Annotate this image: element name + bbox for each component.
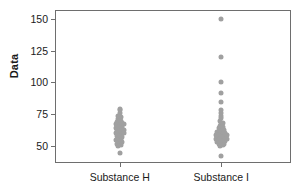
y-axis-tick-label: 100 — [30, 76, 48, 88]
y-axis-tick-label: 125 — [30, 45, 48, 57]
data-point — [219, 80, 224, 85]
x-axis-category-label: Substance H — [90, 171, 150, 183]
y-axis-tick — [51, 114, 56, 115]
data-point — [219, 99, 224, 104]
y-axis-tick — [51, 19, 56, 20]
y-axis-tick-label: 75 — [36, 108, 48, 120]
data-point — [219, 16, 224, 21]
x-axis-category-label: Substance I — [193, 171, 248, 183]
x-axis-tick — [221, 162, 222, 167]
data-point — [219, 154, 224, 159]
dotplot-figure: Data 5075100125150 Substance HSubstance … — [0, 0, 307, 193]
y-axis-tick — [51, 51, 56, 52]
y-axis-label: Data — [8, 36, 20, 96]
y-axis-tick-label: 50 — [36, 140, 48, 152]
y-axis-tick — [51, 82, 56, 83]
y-axis-tick-label: 150 — [30, 13, 48, 25]
data-point — [219, 54, 224, 59]
plot-area: 5075100125150 Substance HSubstance I — [55, 10, 291, 163]
data-point — [219, 108, 224, 113]
data-point — [117, 150, 122, 155]
x-axis-tick — [120, 162, 121, 167]
y-axis-tick — [51, 146, 56, 147]
data-point — [219, 90, 224, 95]
data-point — [117, 107, 122, 112]
